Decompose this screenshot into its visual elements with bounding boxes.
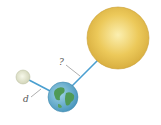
earth-moon-distance-label: d — [23, 94, 29, 104]
d-leader-line — [31, 89, 41, 97]
earth — [48, 82, 78, 112]
sun — [87, 7, 149, 69]
earth-sun-distance-label: ? — [59, 57, 64, 67]
moon — [16, 70, 30, 84]
sun-earth-moon-diagram: ? d — [0, 0, 161, 125]
question-leader-line — [66, 65, 80, 76]
earth-sun-line — [70, 60, 98, 88]
earth-moon-line — [29, 80, 52, 92]
